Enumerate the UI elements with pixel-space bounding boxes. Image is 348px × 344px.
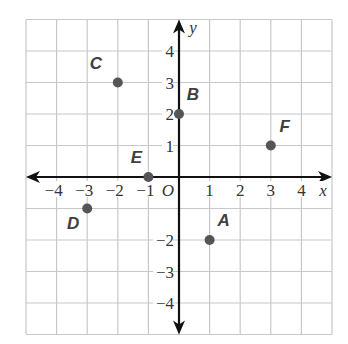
y-tick-label: −2 — [156, 231, 174, 250]
x-tick-label: 4 — [297, 181, 306, 200]
tick-labels: −4−3−2−112344321−2−3−4Oyx — [43, 18, 329, 314]
point-marker-icon — [82, 204, 92, 214]
point-label: B — [187, 85, 199, 104]
point-label: A — [216, 211, 229, 230]
point-label: E — [131, 148, 143, 167]
axes — [26, 20, 332, 335]
point-d: D — [67, 204, 92, 233]
coordinate-plane: −4−3−2−112344321−2−3−4Oyx ABCDEF — [0, 0, 348, 344]
point-label: D — [67, 214, 79, 233]
y-axis-label: y — [187, 18, 197, 37]
x-tick-label: −4 — [45, 181, 64, 200]
x-tick-label: −2 — [106, 181, 124, 200]
point-marker-icon — [143, 172, 153, 182]
y-tick-label: −4 — [156, 294, 175, 313]
point-marker-icon — [174, 109, 184, 119]
y-tick-label: 4 — [166, 42, 175, 61]
x-tick-label: −1 — [136, 181, 154, 200]
x-tick-label: −3 — [75, 181, 93, 200]
point-marker-icon — [266, 141, 276, 151]
point-label: C — [90, 54, 103, 73]
y-tick-label: 3 — [166, 74, 175, 93]
y-tick-label: −3 — [156, 263, 174, 282]
point-marker-icon — [205, 235, 215, 245]
x-axis-label: x — [318, 181, 327, 200]
x-tick-label: 2 — [236, 181, 245, 200]
x-tick-label: 1 — [205, 181, 214, 200]
point-label: F — [280, 117, 291, 136]
y-tick-label: 1 — [166, 137, 175, 156]
point-marker-icon — [113, 78, 123, 88]
x-tick-label: 3 — [267, 181, 276, 200]
y-tick-label: 2 — [166, 105, 175, 124]
origin-label: O — [162, 181, 174, 200]
